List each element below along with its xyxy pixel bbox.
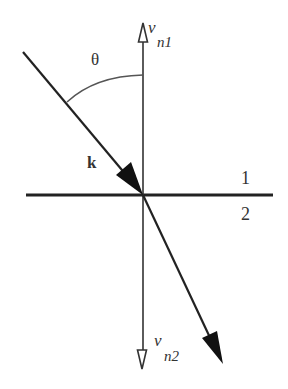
normal-bottom-v-label: v (154, 331, 162, 350)
normal-bottom-sub-label: n2 (164, 348, 180, 364)
wave-vector-label: k (87, 153, 97, 172)
normal-top-sub-label: n1 (157, 34, 172, 50)
refraction-diagram: θ k 1 2 v n1 v n2 (0, 0, 288, 389)
refracted-arrowhead-icon (202, 331, 223, 364)
theta-label: θ (91, 50, 99, 69)
refracted-ray (143, 195, 213, 344)
medium-1-label: 1 (241, 168, 250, 188)
normal-up-arrowhead-icon (139, 23, 148, 42)
incident-ray (23, 52, 127, 176)
normal-top-v-label: v (148, 18, 156, 37)
normal-down-arrowhead-icon (138, 350, 147, 369)
angle-arc (67, 75, 143, 102)
medium-2-label: 2 (241, 204, 250, 224)
